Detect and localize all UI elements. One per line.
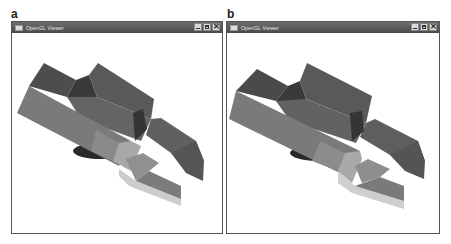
window-titlebar[interactable]: OpenGL Viewer ✕ xyxy=(227,22,439,33)
window-controls: ✕ xyxy=(411,23,437,31)
minimize-icon[interactable] xyxy=(194,23,202,31)
opengl-viewer-window-a: OpenGL Viewer ✕ xyxy=(11,21,223,234)
window-title: OpenGL Viewer xyxy=(241,25,279,31)
window-title: OpenGL Viewer xyxy=(26,25,64,31)
maximize-icon[interactable] xyxy=(420,23,428,31)
window-titlebar[interactable]: OpenGL Viewer ✕ xyxy=(12,22,222,33)
3d-model-render xyxy=(227,33,439,233)
maximize-icon[interactable] xyxy=(203,23,211,31)
panel-label-b: b xyxy=(227,8,234,20)
window-controls: ✕ xyxy=(194,23,220,31)
render-viewport[interactable] xyxy=(227,33,439,233)
app-icon[interactable] xyxy=(230,25,238,31)
close-icon[interactable]: ✕ xyxy=(212,23,220,31)
minimize-icon[interactable] xyxy=(411,23,419,31)
opengl-viewer-window-b: OpenGL Viewer ✕ xyxy=(226,21,440,234)
render-viewport[interactable] xyxy=(12,33,222,233)
3d-model-render xyxy=(12,33,222,233)
close-icon[interactable]: ✕ xyxy=(429,23,437,31)
app-icon[interactable] xyxy=(15,25,23,31)
panel-label-a: a xyxy=(11,8,18,20)
